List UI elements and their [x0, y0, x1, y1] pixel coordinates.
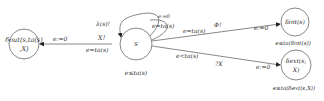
node-output-label-line2: ,X) — [19, 45, 29, 53]
node-output: δout(s,ta(s) ,X) — [5, 29, 43, 59]
edge-loop-reset: e:=0 — [158, 13, 171, 19]
edge-internal-action: Φ! — [214, 21, 222, 28]
edge-internal-guard: e=ta(s) — [183, 27, 206, 34]
edge-self-loop: λ(s)! e=ta(s) e:=0 — [95, 13, 175, 40]
edge-external-action: ?X — [215, 60, 223, 67]
node-output-label-line1: δout(s,ta(s) — [5, 36, 43, 44]
node-internal: δint(s) e≤ta(δint(s)) — [275, 8, 311, 46]
edge-output-action: X! — [97, 34, 106, 42]
node-s-label: s — [134, 40, 138, 48]
node-internal-label: δint(s) — [285, 18, 305, 25]
node-external-invariant: e≤ta(δext(s,X)) — [273, 85, 315, 91]
edge-s-to-output: e:=0 X! e=ta(s) — [40, 34, 112, 53]
edge-output-reset: e:=0 — [53, 35, 68, 42]
node-internal-invariant: e≤ta(δint(s)) — [275, 40, 311, 46]
node-s-invariant: e≤ta(s) — [125, 69, 148, 76]
edge-loop-guard: e=ta(s) — [152, 22, 175, 29]
node-external-label-line2: X) — [292, 66, 300, 73]
edge-external-guard: e<ta(s) — [176, 52, 199, 59]
node-external-label-line1: δext(s, — [286, 57, 306, 64]
state-diagram: δout(s,ta(s) ,X) e:=0 X! e=ta(s) s e≤ta(… — [0, 0, 324, 101]
node-external: δext(s, X) e≤ta(δext(s,X)) — [273, 50, 315, 91]
edge-loop-output: λ(s)! — [95, 20, 111, 27]
edge-internal-reset: e:=0 — [254, 24, 269, 31]
node-s: s e≤ta(s) — [120, 28, 152, 76]
edge-external-reset: e:=0 — [256, 63, 271, 70]
edge-s-to-external: e<ta(s) ?X e:=0 — [152, 46, 280, 70]
edge-output-guard: e=ta(s) — [86, 46, 109, 53]
